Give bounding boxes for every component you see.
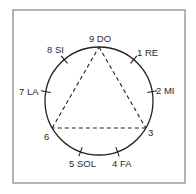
label-9-do: 9 DO: [89, 33, 111, 44]
label-5-sol: 5 SOL: [69, 158, 96, 169]
label-2-mi: 2 MI: [156, 85, 174, 96]
label-8-si: 8 SI: [47, 44, 64, 55]
label-6: 6: [44, 131, 49, 142]
enneagram-diagram: 9 DO 1 RE 2 MI 3 4 FA 5 SOL 6 7 LA 8 SI: [0, 0, 196, 194]
label-4-fa: 4 FA: [112, 158, 132, 169]
label-3: 3: [148, 127, 153, 138]
label-1-re: 1 RE: [137, 47, 158, 58]
label-7-la: 7 LA: [19, 86, 39, 97]
